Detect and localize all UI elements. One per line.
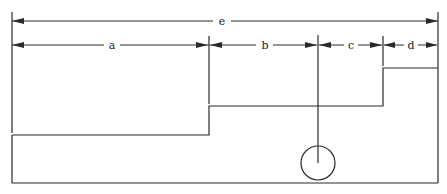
dimension-label-d: d bbox=[407, 39, 414, 52]
dimension-label-a: a bbox=[109, 39, 116, 52]
dimension-b: b bbox=[210, 39, 317, 52]
dimension-label-b: b bbox=[261, 39, 268, 52]
stepped-profile-outline bbox=[12, 68, 438, 135]
arrowhead-right-icon bbox=[196, 42, 208, 48]
dimension-d: d bbox=[384, 39, 437, 52]
dimension-c: c bbox=[319, 39, 382, 52]
profile-base-outline bbox=[12, 135, 438, 183]
arrowhead-right-icon bbox=[305, 42, 317, 48]
dimension-label-c: c bbox=[348, 39, 354, 52]
extension-lines bbox=[12, 12, 438, 183]
arrowhead-left-icon bbox=[384, 42, 395, 48]
arrowhead-left-icon bbox=[12, 42, 24, 48]
dimensioned-profile-diagram: e a b c bbox=[0, 0, 447, 194]
arrowhead-right-icon bbox=[370, 42, 382, 48]
arrowhead-left-icon bbox=[210, 42, 222, 48]
arrowhead-right-icon bbox=[426, 18, 438, 24]
arrowhead-right-icon bbox=[426, 42, 437, 48]
dimension-a: a bbox=[12, 39, 209, 52]
dimension-e: e bbox=[12, 15, 438, 28]
arrowhead-left-icon bbox=[12, 18, 24, 24]
circle-marker bbox=[301, 35, 335, 180]
dimension-label-e: e bbox=[219, 15, 226, 28]
arrowhead-left-icon bbox=[319, 42, 331, 48]
